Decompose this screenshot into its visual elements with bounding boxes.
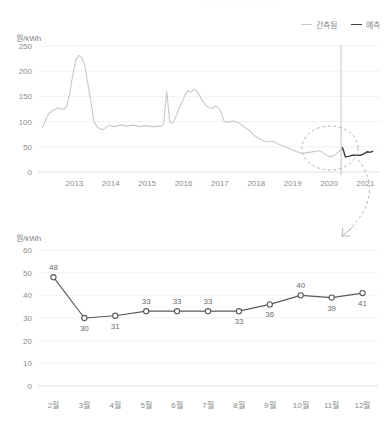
bottom-x-tick-12월: 12월 (355, 400, 371, 410)
bottom-y-tick-0: 0 (28, 382, 33, 391)
bottom-x-tick-2월: 2월 (48, 400, 59, 410)
top-x-tick-2013: 2013 (65, 179, 83, 188)
top-y-tick-150: 150 (19, 92, 33, 101)
top-x-tick-2019: 2019 (284, 179, 302, 188)
bottom-data-point-marker (329, 295, 334, 300)
bottom-data-point-marker (144, 309, 149, 314)
bottom-x-tick-7월: 7월 (202, 400, 213, 410)
bottom-x-tick-5월: 5월 (140, 400, 151, 410)
bottom-data-point-marker (298, 293, 303, 298)
bottom-point-label-11월: 39 (327, 304, 336, 313)
bottom-x-tick-3월: 3월 (79, 400, 90, 410)
bottom-data-point-marker (174, 309, 179, 314)
top-x-tick-2016: 2016 (175, 179, 193, 188)
bottom-point-label-6월: 33 (173, 297, 182, 306)
bottom-point-label-12월: 41 (358, 299, 367, 308)
figure-root: 전력 도매가격 추이 및 전망 간측됨 예측 원/kWh 05010015020… (0, 0, 386, 421)
top-chart: 간측됨 예측 원/kWh 050100150200250201320142015… (0, 0, 386, 200)
top-y-tick-50: 50 (23, 143, 32, 152)
top-x-tick-2014: 2014 (102, 179, 120, 188)
bottom-point-label-8월: 33 (234, 317, 243, 326)
top-x-tick-2018: 2018 (247, 179, 265, 188)
bottom-data-point-marker (205, 309, 210, 314)
bottom-y-tick-20: 20 (23, 337, 32, 346)
bottom-chart: 원/kWh 0102030405060482월303월314월335월336월3… (0, 228, 386, 421)
bottom-x-tick-4월: 4월 (110, 400, 121, 410)
top-series-observed (42, 56, 342, 157)
top-y-tick-100: 100 (19, 118, 33, 127)
bottom-x-tick-9월: 9월 (264, 400, 275, 410)
bottom-data-point-marker (236, 309, 241, 314)
top-chart-plot: 0501001502002502013201420152016201720182… (0, 0, 386, 200)
top-x-tick-2017: 2017 (211, 179, 229, 188)
bottom-data-point-marker (113, 313, 118, 318)
bottom-y-tick-40: 40 (23, 291, 32, 300)
top-x-tick-2020: 2020 (320, 179, 338, 188)
bottom-point-label-9월: 36 (265, 310, 274, 319)
bottom-x-tick-8월: 8월 (233, 400, 244, 410)
top-series-forecast (343, 148, 373, 157)
bottom-x-tick-10월: 10월 (293, 400, 309, 410)
bottom-point-label-2월: 48 (49, 263, 58, 272)
top-y-tick-250: 250 (19, 42, 33, 51)
bottom-data-point-marker (267, 302, 272, 307)
bottom-chart-plot: 0102030405060482월303월314월335월336월337월338… (0, 228, 386, 421)
bottom-point-label-3월: 30 (80, 324, 89, 333)
bottom-data-point-marker (51, 275, 56, 280)
bottom-y-tick-60: 60 (23, 246, 32, 255)
bottom-point-label-10월: 40 (296, 281, 305, 290)
bottom-x-tick-11월: 11월 (324, 400, 339, 410)
top-y-tick-200: 200 (19, 67, 33, 76)
bottom-point-label-7월: 33 (204, 297, 213, 306)
bottom-point-label-5월: 33 (142, 297, 151, 306)
bottom-y-tick-30: 30 (23, 314, 32, 323)
bottom-y-tick-50: 50 (23, 269, 32, 278)
top-x-tick-2015: 2015 (138, 179, 156, 188)
top-x-tick-2021: 2021 (357, 179, 375, 188)
bottom-point-label-4월: 31 (111, 322, 120, 331)
bottom-x-tick-6월: 6월 (171, 400, 182, 410)
bottom-y-tick-10: 10 (23, 359, 32, 368)
bottom-data-point-marker (82, 315, 87, 320)
bottom-data-point-marker (360, 290, 365, 295)
top-y-tick-0: 0 (28, 168, 33, 177)
